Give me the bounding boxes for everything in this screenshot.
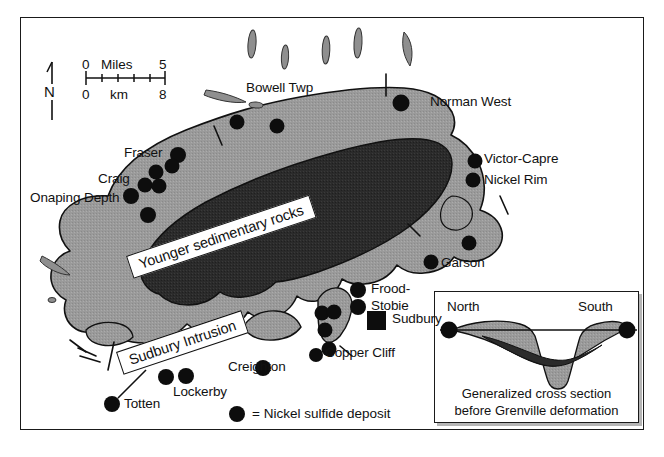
inset-label-north: North — [447, 299, 480, 314]
scale-bot-right: 8 — [159, 87, 167, 102]
figure-canvas: 0 Miles 5 0 km 8 N Bowell Twp Norman Wes… — [0, 0, 664, 457]
inset-label-south: South — [578, 299, 613, 314]
inset-caption-line1: Generalized cross section — [434, 386, 639, 401]
legend-text: = Nickel sulfide deposit — [252, 406, 390, 421]
label-garson: Garson — [441, 255, 485, 270]
scale-bot-unit: km — [110, 87, 128, 102]
label-frood: Frood- — [371, 281, 410, 296]
compass-label: N — [44, 84, 55, 101]
label-creighton: Creighton — [228, 359, 286, 374]
scale-top-left: 0 — [82, 57, 90, 72]
label-bowell-twp: Bowell Twp — [246, 80, 313, 95]
label-fraser: Fraser — [124, 145, 162, 160]
scale-top-right: 5 — [159, 57, 167, 72]
label-onaping-depth: Onaping Depth — [30, 190, 120, 205]
label-lockerby: Lockerby — [173, 384, 227, 399]
scale-top-unit: Miles — [101, 57, 133, 72]
label-victor-capre: Victor-Capre — [484, 151, 558, 166]
label-nickel-rim: Nickel Rim — [484, 172, 548, 187]
label-totten: Totten — [124, 396, 160, 411]
label-copper-cliff: Copper Cliff — [325, 345, 395, 360]
inset-caption-line2: before Grenville deformation — [434, 403, 639, 418]
label-norman-west: Norman West — [430, 94, 511, 109]
label-craig: Craig — [98, 171, 130, 186]
label-sudbury-city: Sudbury — [392, 311, 442, 326]
scale-bot-left: 0 — [82, 87, 90, 102]
